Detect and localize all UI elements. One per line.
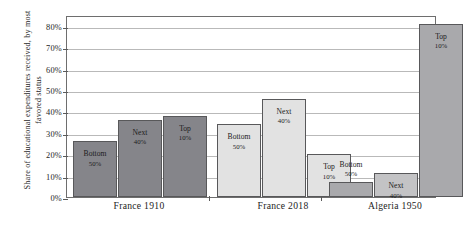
bars-layer: Bottom50%Next40%Top10%Bottom50%Next40%To… (67, 17, 435, 197)
y-axis-tick-label: 50% (46, 86, 62, 95)
bar-label-line1: Next (389, 181, 404, 190)
plot-area: Bottom50%Next40%Top10%Bottom50%Next40%To… (66, 16, 436, 198)
x-axis-group-label: France 1910 (114, 200, 165, 211)
bar-label: Top10% (179, 124, 191, 143)
bar-label-line1: Top (435, 32, 447, 41)
y-axis-tick-label: 0% (50, 194, 62, 203)
y-axis-tick-label: 80% (46, 22, 62, 31)
bar-label-line1: Next (133, 128, 148, 137)
bar-label-line1: Bottom (84, 149, 107, 158)
bar-label-line2: 10% (179, 133, 191, 142)
bar-label-line1: Top (179, 124, 191, 133)
bar-label: Top10% (435, 32, 447, 51)
bar-label: Bottom50% (84, 149, 107, 168)
bar-label-line1: Bottom (340, 160, 363, 169)
bar-label-line2: 40% (277, 116, 292, 125)
bar: Next40% (118, 120, 162, 197)
bar: Bottom50% (73, 141, 117, 197)
y-axis-title: Share of educational expenditures receiv… (0, 0, 34, 230)
bar-label-line2: 50% (228, 142, 251, 151)
bar-label: Top10% (323, 162, 335, 181)
bar-label-line1: Next (277, 107, 292, 116)
bar: Next40% (262, 99, 306, 197)
bar: Top10% (163, 116, 207, 197)
x-axis-group-label: Algeria 1950 (368, 200, 422, 211)
bar-label-line2: 10% (435, 41, 447, 50)
y-axis-tick-label: 30% (46, 129, 62, 138)
bar-label-line2: 50% (84, 159, 107, 168)
bar: Bottom50% (329, 182, 373, 197)
bar-label-line2: 10% (323, 172, 335, 181)
y-axis-tick-label: 10% (46, 172, 62, 181)
bar-label: Next40% (389, 181, 404, 200)
bar-label-line2: 40% (389, 191, 404, 200)
x-axis-group-label: France 2018 (258, 200, 309, 211)
y-axis-tick-label: 20% (46, 151, 62, 160)
bar: Bottom50% (217, 124, 261, 197)
bar-label: Bottom50% (228, 132, 251, 151)
y-axis-tick-label: 60% (46, 65, 62, 74)
y-axis-tick-label: 70% (46, 44, 62, 53)
y-axis-tick-label: 40% (46, 108, 62, 117)
bar-label-line1: Bottom (228, 132, 251, 141)
x-axis-group-labels: France 1910France 2018Algeria 1950 (66, 200, 436, 222)
bar-label-line2: 50% (340, 169, 363, 178)
bar: Top10% (419, 24, 463, 197)
y-axis-tick-labels: 0%10%20%30%40%50%60%70%80% (34, 0, 64, 230)
bar-label-line2: 40% (133, 137, 148, 146)
bar-label: Bottom50% (340, 160, 363, 179)
bar-label-line1: Top (323, 162, 335, 171)
bar: Next40% (374, 173, 418, 197)
bar-label: Next40% (277, 107, 292, 126)
bar-label: Next40% (133, 128, 148, 147)
